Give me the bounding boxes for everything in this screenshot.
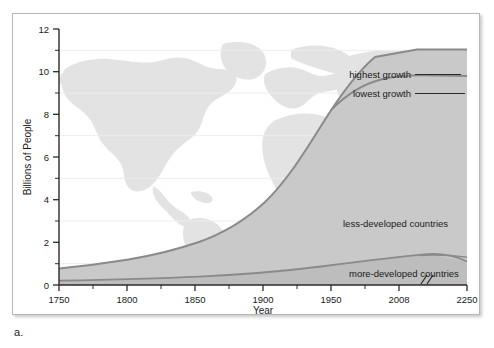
x-tick-label: 2008 (388, 294, 409, 305)
x-tick-label: 1950 (320, 294, 341, 305)
population-growth-chart: 12 10 8 6 4 2 0 1750 1800 1850 1900 1950… (13, 14, 479, 314)
x-tick-label: 2250 (456, 294, 477, 305)
lowest-growth-area (343, 77, 467, 286)
y-tick-label: 0 (44, 280, 49, 291)
x-tick-label: 1800 (116, 294, 137, 305)
x-axis-title: Year (253, 305, 274, 314)
y-tick-label: 2 (44, 237, 49, 248)
y-tick-label: 12 (38, 24, 49, 35)
y-tick-label: 10 (38, 66, 49, 77)
y-tick-label: 8 (44, 109, 49, 120)
figure-caption: a. (14, 326, 24, 338)
figure-frame: 12 10 8 6 4 2 0 1750 1800 1850 1900 1950… (12, 13, 480, 315)
y-tick-label: 6 (44, 152, 49, 163)
x-tick-labels: 1750 1800 1850 1900 1950 2008 2250 (48, 294, 477, 305)
x-tick-label: 1750 (48, 294, 69, 305)
figure-root: 12 10 8 6 4 2 0 1750 1800 1850 1900 1950… (0, 0, 494, 348)
x-tick-label: 1900 (252, 294, 273, 305)
annotation-lowest-growth: lowest growth (353, 88, 411, 99)
y-axis-major-ticks (53, 29, 59, 285)
y-axis-title: Billions of People (22, 118, 33, 195)
annotation-less-developed-countries: less-developed countries (343, 218, 448, 229)
annotation-highest-growth: highest growth (349, 69, 411, 80)
y-tick-label: 4 (44, 194, 49, 205)
x-tick-label: 1850 (184, 294, 205, 305)
x-axis-major-ticks (59, 285, 467, 291)
y-tick-labels: 12 10 8 6 4 2 0 (38, 24, 49, 291)
annotation-more-developed-countries: more-developed countries (349, 268, 459, 279)
